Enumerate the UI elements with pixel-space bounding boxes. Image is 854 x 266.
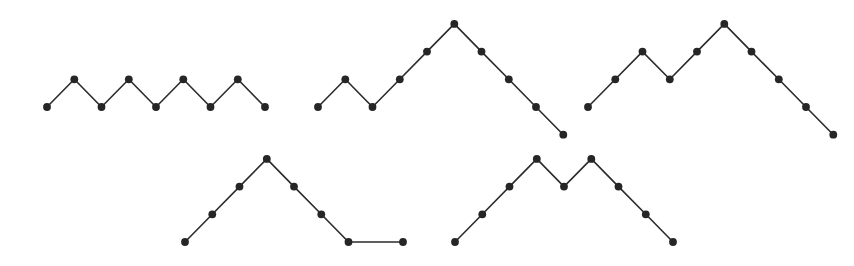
path-segment-line	[588, 24, 833, 135]
path-vertex-dot	[666, 75, 674, 83]
path-segment-line	[318, 24, 563, 135]
path-vertex-dot	[478, 210, 486, 218]
lattice-path-figure	[0, 0, 854, 266]
path-2	[314, 20, 567, 139]
path-vertex-dot	[802, 103, 810, 111]
path-vertex-dot	[125, 75, 133, 83]
path-vertex-dot	[179, 75, 187, 83]
path-vertex-dot	[423, 48, 431, 56]
path-vertex-dot	[314, 103, 322, 111]
path-vertex-dot	[345, 238, 353, 246]
path-vertex-dot	[559, 131, 567, 139]
path-segment-line	[455, 159, 673, 242]
path-vertex-dot	[720, 20, 728, 28]
path-vertex-dot	[317, 210, 325, 218]
path-vertex-dot	[775, 75, 783, 83]
path-vertex-dot	[208, 210, 216, 218]
path-vertex-dot	[639, 48, 647, 56]
paths-group	[43, 20, 837, 246]
path-vertex-dot	[615, 183, 623, 191]
path-vertex-dot	[70, 75, 78, 83]
path-3	[584, 20, 837, 139]
path-vertex-dot	[829, 131, 837, 139]
path-vertex-dot	[450, 20, 458, 28]
path-vertex-dot	[533, 155, 541, 163]
path-vertex-dot	[451, 238, 459, 246]
path-vertex-dot	[181, 238, 189, 246]
path-vertex-dot	[396, 75, 404, 83]
path-4	[181, 155, 407, 246]
path-vertex-dot	[506, 183, 514, 191]
path-segment-line	[185, 159, 403, 242]
path-vertex-dot	[234, 75, 242, 83]
path-vertex-dot	[152, 103, 160, 111]
path-vertex-dot	[290, 183, 298, 191]
path-vertex-dot	[693, 48, 701, 56]
path-vertex-dot	[261, 103, 269, 111]
path-vertex-dot	[236, 183, 244, 191]
path-vertex-dot	[369, 103, 377, 111]
path-vertex-dot	[399, 238, 407, 246]
path-vertex-dot	[207, 103, 215, 111]
path-vertex-dot	[263, 155, 271, 163]
path-vertex-dot	[478, 48, 486, 56]
path-vertex-dot	[98, 103, 106, 111]
path-5	[451, 155, 677, 246]
path-vertex-dot	[43, 103, 51, 111]
path-vertex-dot	[587, 155, 595, 163]
path-vertex-dot	[642, 210, 650, 218]
path-vertex-dot	[669, 238, 677, 246]
path-vertex-dot	[560, 183, 568, 191]
path-vertex-dot	[748, 48, 756, 56]
lattice-paths-canvas	[0, 0, 854, 266]
path-vertex-dot	[584, 103, 592, 111]
path-vertex-dot	[532, 103, 540, 111]
path-vertex-dot	[611, 75, 619, 83]
path-1	[43, 75, 269, 111]
path-segment-line	[47, 79, 265, 107]
path-vertex-dot	[505, 75, 513, 83]
path-vertex-dot	[341, 75, 349, 83]
